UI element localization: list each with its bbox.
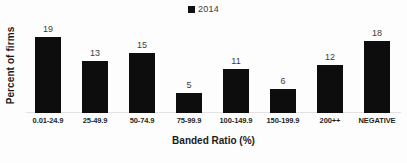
bar — [129, 53, 155, 113]
bar-value-label: 11 — [214, 57, 258, 66]
x-axis-tick-label: 200++ — [306, 117, 354, 125]
bar — [317, 65, 343, 113]
bar-slot: 18 — [355, 16, 399, 113]
bar — [223, 69, 249, 113]
bar — [82, 61, 108, 113]
x-axis-tick-label: 75-99.9 — [165, 117, 213, 125]
bar-value-label: 13 — [73, 49, 117, 58]
x-axis-tick-label: 100-149.9 — [212, 117, 260, 125]
bar-value-label: 18 — [355, 29, 399, 38]
x-axis-tick-label: 150-199.9 — [259, 117, 307, 125]
legend-label: 2014 — [198, 5, 219, 14]
bar — [35, 37, 61, 113]
plot-area: 19 13 15 5 11 6 12 18 — [26, 16, 401, 113]
x-axis-tick-label: 0.01-24.9 — [24, 117, 72, 125]
x-axis-title: Banded Ratio (%) — [26, 135, 401, 146]
x-axis-tick-label: NEGATIVE — [353, 117, 401, 125]
x-axis-tick-label: 25-49.9 — [71, 117, 119, 125]
chart-legend: 2014 — [0, 2, 407, 16]
bar-slot: 13 — [73, 16, 117, 113]
bar-slot: 15 — [120, 16, 164, 113]
bar-value-label: 5 — [167, 81, 211, 90]
bar-chart: 2014 Percent of firms 19 13 15 5 11 6 — [0, 0, 407, 163]
x-axis-tick-labels: 0.01-24.9 25-49.9 50-74.9 75-99.9 100-14… — [26, 117, 401, 131]
bar-slot: 5 — [167, 16, 211, 113]
bar — [364, 41, 390, 113]
bar-slot: 11 — [214, 16, 258, 113]
x-axis-tick-label: 50-74.9 — [118, 117, 166, 125]
bar — [270, 89, 296, 113]
square-marker-icon — [188, 6, 195, 13]
y-axis-title-text: Percent of firms — [6, 26, 17, 104]
bar-value-label: 15 — [120, 41, 164, 50]
bar-value-label: 19 — [26, 25, 70, 34]
legend-entry-2014: 2014 — [188, 5, 219, 14]
bar-value-label: 6 — [261, 77, 305, 86]
bar-slot: 19 — [26, 16, 70, 113]
bar — [176, 93, 202, 113]
bar-value-label: 12 — [308, 53, 352, 62]
bar-slot: 12 — [308, 16, 352, 113]
y-axis-title: Percent of firms — [2, 16, 20, 114]
bar-slot: 6 — [261, 16, 305, 113]
